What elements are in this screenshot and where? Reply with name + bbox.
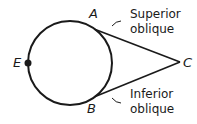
- point-b-label: B: [87, 101, 96, 116]
- superior-label-line2: oblique: [130, 22, 174, 36]
- superior-leader-line: [112, 21, 121, 26]
- eye-muscles-diagram: A B C E Superior oblique Inferior obliqu…: [0, 0, 197, 124]
- eyeball-circle: [28, 21, 112, 105]
- inferior-label-line1: Inferior: [130, 87, 173, 101]
- superior-label-line1: Superior: [130, 7, 181, 21]
- inferior-label-line2: oblique: [130, 102, 174, 116]
- point-e-dot: [25, 60, 32, 67]
- inferior-leader-line: [112, 98, 121, 103]
- point-a-label: A: [88, 6, 98, 21]
- point-c-label: C: [183, 55, 193, 70]
- point-e-label: E: [13, 55, 22, 70]
